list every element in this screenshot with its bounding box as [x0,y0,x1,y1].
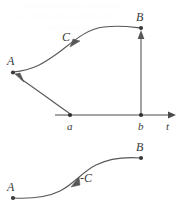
projection-arrow-a-arrowhead [15,73,24,82]
label-tick-a: a [67,121,73,132]
t-axis-arrowhead [168,112,176,119]
curve-c-direction-arrowhead [70,39,80,47]
curve-c-path [13,26,141,72]
label-point-B-lower: B [136,141,143,153]
label-point-A-lower: A [7,181,14,193]
lower-diagram-group [11,156,143,200]
label-point-A-upper: A [7,55,14,67]
lower-point-B-marker [139,156,143,160]
projection-arrow-a-to-A [21,79,69,113]
tick-a-marker [68,113,72,117]
curve-minus-c-path [13,158,141,199]
label-curve-C: C [62,31,70,43]
label-t-axis: t [166,121,169,132]
label-tick-b: b [138,121,144,132]
lower-point-A-marker [11,196,15,200]
label-curve-minus-C: -C [80,172,92,184]
tick-b-marker [139,113,143,117]
label-point-B-upper: B [136,11,143,23]
point-A-marker [11,70,15,74]
curve-orientation-figure: the curve and let us consider the we wil… [0,0,183,208]
upper-diagram-group [11,26,176,119]
point-B-marker [139,26,143,30]
projection-line-b-arrowhead [138,30,145,39]
